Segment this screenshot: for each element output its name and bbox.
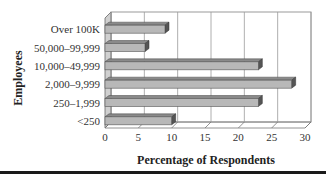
y-category-label: Over 100K [51,23,100,35]
bottom-rule-divider [0,171,326,174]
bar [105,59,262,70]
x-tick-label: 30 [300,131,312,143]
bar [105,22,169,33]
x-axis-title: Percentage of Respondents [137,153,275,167]
x-tick-label: 10 [166,131,178,143]
y-category-label: 10,000–49,999 [34,60,101,72]
bar [105,96,262,107]
bar [105,41,149,52]
y-axis-title: Employees [11,50,25,106]
x-axis-ticks: 051015202530 [102,131,311,143]
x-tick-label: 20 [233,131,245,143]
y-category-label: 250–1,999 [53,97,100,109]
x-tick-label: 0 [102,131,108,143]
chart-bars [105,22,296,125]
bar [105,77,296,88]
x-tick-label: 15 [200,131,212,143]
x-tick-label: 25 [266,131,278,143]
bar-chart: 051015202530 Over 100K50,000–99,99910,00… [0,0,326,182]
y-axis-categories: Over 100K50,000–99,99910,000–49,9992,000… [34,23,101,127]
y-category-label: 50,000–99,999 [34,42,101,54]
bar [105,114,176,125]
y-category-label: 2,000–9,999 [45,78,101,90]
y-category-label: <250 [77,115,100,127]
x-tick-label: 5 [136,131,142,143]
